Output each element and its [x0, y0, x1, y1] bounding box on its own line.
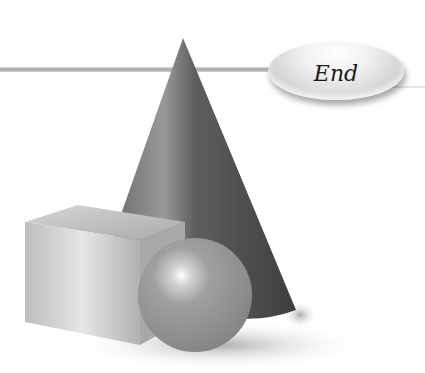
sphere-shape — [138, 238, 252, 352]
end-button-label: End — [314, 61, 358, 86]
cube-front — [25, 222, 140, 345]
end-button[interactable]: End — [268, 42, 404, 100]
